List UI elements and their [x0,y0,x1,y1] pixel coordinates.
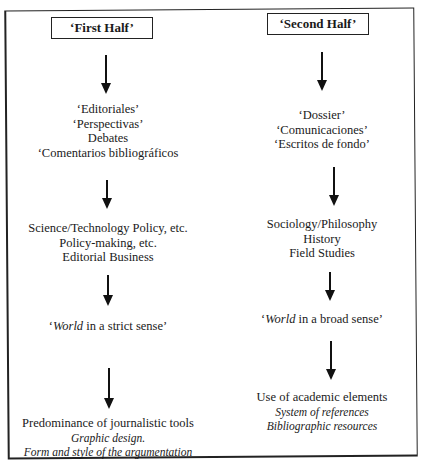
stage-line: ‘World in a strict sense’ [8,319,208,334]
stage-line: ‘Perspectivas’ [8,117,208,132]
stage-world-sense: ‘World in a broad sense’ [222,312,422,327]
stage-topics: Science/Technology Policy, etc. Policy-m… [8,221,208,265]
stage-line-italic: Bibliographic resources [222,419,422,434]
stage-line: Use of academic elements [222,390,422,405]
stage-line: Science/Technology Policy, etc. [8,221,208,236]
column-second-half: ‘Second Half’ ‘Dossier’ ‘Comunicaciones’… [222,0,422,466]
stage-line: Policy-making, etc. [8,236,208,251]
stage-sections: ‘Editoriales’ ‘Perspectivas’ Debates ‘Co… [8,102,208,160]
header-box-second-half: ‘Second Half’ [267,13,369,35]
stage-line: ‘Escritos de fondo’ [222,137,422,152]
stage-line: ‘Editoriales’ [8,102,208,117]
stage-line-italic: System of references [222,405,422,420]
stage-line: History [222,232,422,247]
stage-line: Field Studies [222,246,422,261]
stage-line: Editorial Business [8,250,208,265]
stage-tools: Predominance of journalistic tools Graph… [8,416,208,460]
stage-line: Debates [8,131,208,146]
stage-line: ‘Dossier’ [222,108,422,123]
column-first-half: ‘First Half’ ‘Editoriales’ ‘Perspectivas… [8,0,208,466]
stage-line-italic: Form and style of the argumentation [8,445,208,460]
stage-line: Predominance of journalistic tools [8,416,208,431]
stage-line: ‘World in a broad sense’ [222,312,422,327]
stage-world-sense: ‘World in a strict sense’ [8,319,208,334]
stage-academic: Use of academic elements System of refer… [222,390,422,434]
stage-topics: Sociology/Philosophy History Field Studi… [222,217,422,261]
header-label: ‘Second Half’ [280,16,357,32]
header-box-first-half: ‘First Half’ [51,17,153,39]
header-label: ‘First Half’ [70,20,134,36]
stage-line: ‘Comunicaciones’ [222,123,422,138]
stage-line: ‘Comentarios bibliográficos [8,146,208,161]
stage-line-italic: Graphic design. [8,431,208,446]
stage-line: Sociology/Philosophy [222,217,422,232]
stage-sections: ‘Dossier’ ‘Comunicaciones’ ‘Escritos de … [222,108,422,152]
